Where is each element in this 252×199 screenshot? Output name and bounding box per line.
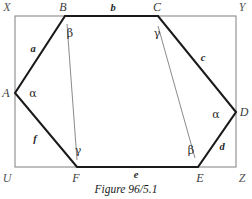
figure-container: X Y Z U A B C D E F a b c d e f α β γ α … [0, 0, 252, 199]
diagonal-CE [158, 26, 195, 158]
figure-drawing [0, 0, 252, 199]
hexagon-ABCDEF [15, 16, 236, 167]
figure-caption: Figure 96/5.1 [0, 183, 252, 195]
diagonal-BF [67, 24, 77, 160]
bounding-rectangle [15, 16, 236, 167]
